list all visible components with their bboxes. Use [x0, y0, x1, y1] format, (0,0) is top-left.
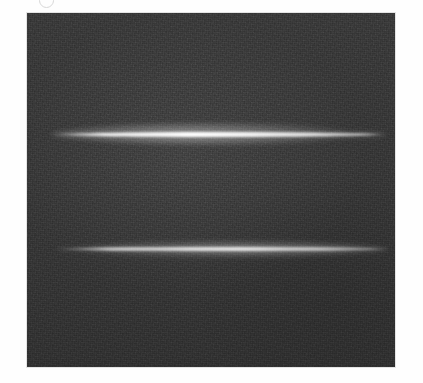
detector-image-panel [27, 13, 395, 367]
figure-panel-label-circle [39, 0, 54, 8]
panel-background-shading [27, 13, 395, 367]
figure-root [0, 0, 423, 383]
